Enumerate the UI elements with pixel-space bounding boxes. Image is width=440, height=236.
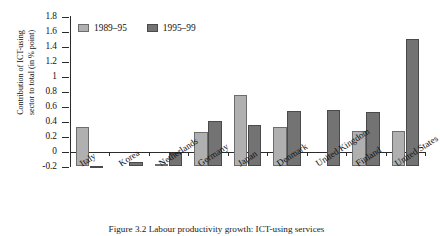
bar: [129, 162, 143, 166]
bar: [90, 166, 104, 168]
y-tick-label: 0.8: [17, 87, 57, 96]
legend-item-1995-99: 1995–99: [147, 23, 196, 33]
y-tick-label: 0: [17, 147, 57, 156]
y-tick-label: 1.6: [17, 27, 57, 36]
legend-item-1989-95: 1989–95: [78, 23, 127, 33]
y-tick-label: -0.2: [17, 162, 57, 171]
legend-swatch-icon: [147, 24, 158, 32]
y-tick: [62, 152, 69, 153]
y-tick: [62, 107, 69, 108]
y-tick: [62, 137, 69, 138]
y-tick-label: 1: [17, 72, 57, 81]
x-tick: [346, 152, 347, 156]
y-tick-label: 1.2: [17, 57, 57, 66]
x-tick: [149, 152, 150, 156]
plot-area: [70, 17, 425, 166]
x-tick: [188, 152, 189, 156]
x-tick: [228, 152, 229, 156]
x-tick: [109, 152, 110, 156]
legend-label: 1989–95: [94, 23, 127, 33]
y-tick-label: 0.2: [17, 132, 57, 141]
legend-label: 1995–99: [163, 23, 196, 33]
y-tick-label: 1.4: [17, 42, 57, 51]
bar-group: [234, 31, 262, 166]
x-tick: [386, 152, 387, 156]
y-tick: [62, 77, 69, 78]
x-tick: [70, 152, 71, 156]
y-tick: [62, 62, 69, 63]
y-tick-label: 0.4: [17, 117, 57, 126]
y-tick: [62, 17, 69, 18]
figure-caption: Figure 3.2 Labour productivity growth: I…: [0, 224, 433, 234]
x-tick: [267, 152, 268, 156]
y-tick: [62, 122, 69, 123]
x-tick: [425, 152, 426, 156]
y-tick: [62, 32, 69, 33]
x-tick: [307, 152, 308, 156]
y-tick-label: 0.6: [17, 102, 57, 111]
y-tick: [62, 167, 69, 168]
y-tick-label: 1.8: [17, 12, 57, 21]
bar-group: [76, 31, 104, 166]
y-tick: [62, 47, 69, 48]
legend-swatch-icon: [78, 24, 89, 32]
chart-legend: 1989–95 1995–99: [78, 23, 196, 33]
bar-group: [115, 31, 143, 166]
y-tick: [62, 92, 69, 93]
